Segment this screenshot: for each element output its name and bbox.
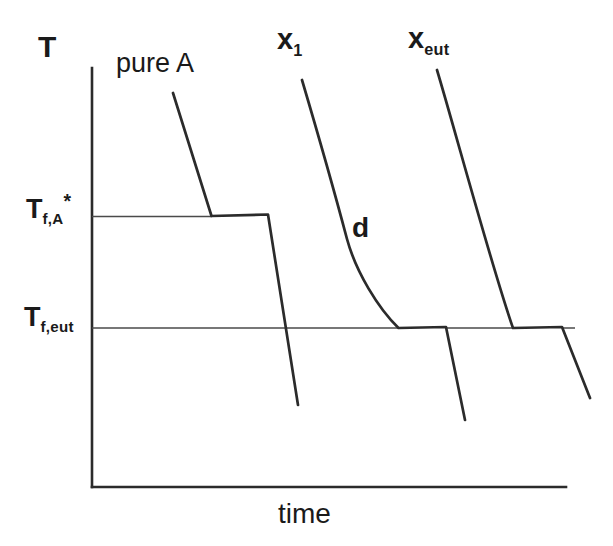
y-tick-label-tfa: Tf,A* (26, 192, 71, 227)
curve-label-xeut-subscript: eut (424, 40, 449, 58)
cooling-curve-plot (0, 0, 613, 546)
curve-x1 (302, 80, 465, 420)
curve-pure-a (173, 93, 298, 405)
cooling-curve-figure: T time Tf,A* Tf,eut pure A x1 xeut d (0, 0, 613, 546)
curve-label-xeut-base: x (408, 22, 424, 54)
y-tick-label-tfeut: Tf,eut (24, 304, 74, 335)
curve-label-pure-a: pure A (116, 50, 194, 77)
y-axis-label: T (38, 32, 56, 62)
annotation-break-point-d: d (352, 214, 369, 242)
y-tick-tfeut-base: T (24, 302, 41, 332)
curve-xeut (437, 70, 590, 398)
curve-label-x1: x1 (277, 25, 302, 58)
y-tick-tfa-superscript: * (64, 190, 72, 212)
curve-label-xeut: xeut (408, 24, 449, 57)
curve-label-x1-subscript: 1 (293, 41, 302, 59)
y-tick-tfa-subscript: f,A (43, 210, 64, 227)
y-tick-tfa-base: T (26, 194, 43, 224)
curve-label-x1-base: x (277, 23, 293, 55)
y-tick-tfeut-subscript: f,eut (41, 318, 74, 335)
x-axis-label: time (278, 500, 331, 528)
